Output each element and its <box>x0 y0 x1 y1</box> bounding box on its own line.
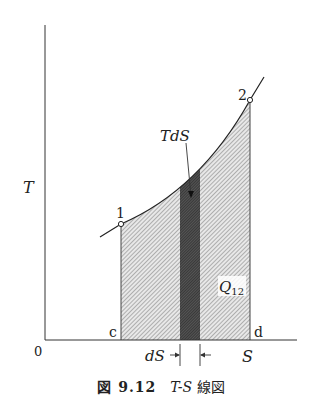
figure-caption: 図 9.12T-S 線図 <box>0 376 322 396</box>
area-q12 <box>121 80 250 340</box>
tds-strip <box>180 80 200 340</box>
point-2-marker <box>247 97 252 102</box>
caption-title: 線図 <box>197 379 225 395</box>
point-2-label: 2 <box>238 87 247 103</box>
c-label: c <box>109 324 117 340</box>
ds-label: dS <box>145 347 165 365</box>
point-1-label: 1 <box>116 205 125 221</box>
caption-math: T-S <box>170 379 192 395</box>
origin-label: 0 <box>34 344 42 359</box>
ds-arrowhead-left-icon <box>175 353 180 358</box>
x-axis-label: S <box>242 347 253 366</box>
tds-label: TdS <box>160 127 190 145</box>
figure-number: 図 9.12 <box>97 379 156 395</box>
y-axis-label: T <box>23 178 35 197</box>
d-label: d <box>254 324 263 340</box>
ds-arrowhead-right-icon <box>200 353 205 358</box>
ts-diagram: T 0 S 1 2 TdS Q12 c d dS <box>0 0 322 412</box>
point-1-marker <box>118 221 123 226</box>
